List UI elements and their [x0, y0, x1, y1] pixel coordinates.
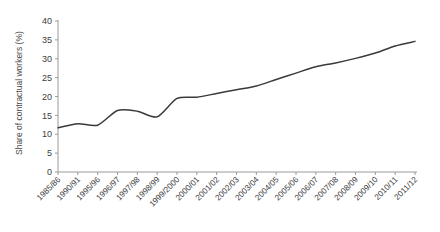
y-tick-label: 0	[47, 167, 52, 177]
y-axis-title-group: Share of contractual workers (%)	[14, 31, 24, 155]
y-tick-label: 30	[42, 54, 52, 64]
chart-container: Share of contractual workers (%) 0510152…	[0, 0, 440, 232]
y-tick-label: 5	[47, 148, 52, 158]
y-tick-label: 10	[42, 129, 52, 139]
y-tick-label: 40	[42, 16, 52, 26]
series-line-contractual-workers	[58, 41, 415, 127]
y-tick-label: 35	[42, 35, 52, 45]
y-axis-ticks: 0510152025303540	[42, 16, 58, 177]
y-tick-label: 20	[42, 92, 52, 102]
y-axis-title: Share of contractual workers (%)	[14, 31, 24, 155]
y-tick-label: 25	[42, 73, 52, 83]
line-chart: Share of contractual workers (%) 0510152…	[0, 0, 440, 232]
x-axis-ticks: 1985/861990/911995/961996/971997/981998/…	[35, 172, 420, 209]
y-tick-label: 15	[42, 111, 52, 121]
